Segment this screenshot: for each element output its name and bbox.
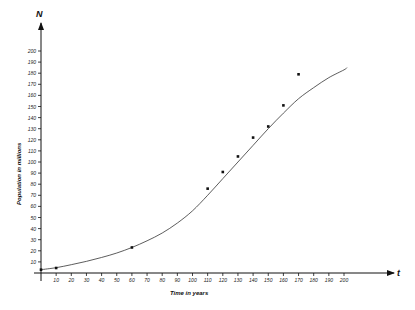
y-tick-label: 60	[30, 203, 36, 209]
y-tick-label: 20	[29, 248, 36, 254]
population-chart: 1020304050607080901001101201301401501601…	[0, 0, 415, 310]
x-tick-label: 190	[325, 277, 334, 283]
x-tick-label: 170	[294, 277, 303, 283]
y-axis-label: Population in millions	[16, 142, 22, 205]
y-tick-label: 160	[28, 92, 37, 98]
data-point	[252, 136, 255, 139]
y-tick-label: 10	[30, 259, 36, 265]
x-tick-label: 40	[99, 277, 105, 283]
x-tick-label: 120	[219, 277, 228, 283]
data-point	[222, 171, 225, 174]
x-tick-label: 20	[68, 277, 75, 283]
y-tick-label: 120	[28, 137, 37, 143]
x-tick-label: 200	[339, 277, 349, 283]
data-point	[131, 246, 134, 249]
x-tick-label: 140	[249, 277, 258, 283]
data-point	[267, 125, 270, 128]
y-axis-ticks: 1020304050607080901001101201301401501601…	[27, 48, 41, 265]
data-point	[237, 155, 240, 158]
y-tick-label: 80	[30, 181, 36, 187]
x-tick-label: 80	[159, 277, 165, 283]
x-tick-label: 150	[264, 277, 273, 283]
data-points	[40, 73, 300, 271]
x-tick-label: 30	[84, 277, 90, 283]
data-point	[40, 268, 43, 271]
x-tick-label: 180	[310, 277, 319, 283]
y-tick-label: 70	[30, 192, 36, 198]
y-tick-label: 150	[28, 104, 37, 110]
x-tick-label: 130	[234, 277, 243, 283]
y-tick-label: 200	[27, 48, 37, 54]
x-axis-variable: t	[397, 268, 401, 278]
x-tick-label: 90	[175, 277, 181, 283]
x-tick-label: 100	[188, 277, 197, 283]
x-tick-label: 10	[53, 277, 59, 283]
y-tick-label: 50	[30, 215, 36, 221]
data-point	[55, 267, 58, 270]
y-tick-label: 140	[28, 115, 37, 121]
x-tick-label: 60	[129, 277, 135, 283]
y-tick-label: 100	[28, 159, 37, 165]
x-axis-ticks: 1020304050607080901001101201301401501601…	[53, 273, 348, 283]
data-point	[206, 187, 209, 190]
x-tick-label: 70	[144, 277, 150, 283]
y-axis-variable: N	[36, 9, 43, 19]
x-tick-label: 160	[279, 277, 288, 283]
y-tick-label: 90	[30, 170, 36, 176]
data-point	[297, 73, 300, 76]
x-tick-label: 110	[204, 277, 212, 283]
y-tick-label: 30	[30, 237, 36, 243]
x-axis-label: Time in years	[170, 290, 209, 296]
axes	[34, 23, 394, 281]
data-point	[282, 104, 285, 107]
y-tick-label: 110	[28, 148, 36, 154]
logistic-fit-curve	[41, 68, 347, 270]
y-tick-label: 40	[30, 226, 36, 232]
x-tick-label: 50	[114, 277, 120, 283]
y-tick-label: 130	[28, 126, 37, 132]
y-tick-label: 180	[28, 70, 37, 76]
y-tick-label: 170	[28, 81, 37, 87]
y-tick-label: 190	[28, 59, 37, 65]
